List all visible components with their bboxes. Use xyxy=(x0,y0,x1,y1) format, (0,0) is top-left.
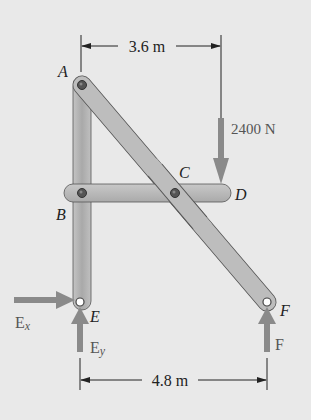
point-label-D: D xyxy=(234,186,247,203)
point-label-B: B xyxy=(56,206,66,223)
load-arrow-2400N xyxy=(213,118,229,184)
point-label-A: A xyxy=(57,63,68,80)
reaction-label-F: F xyxy=(275,336,284,353)
reaction-arrow-Ex xyxy=(14,291,75,309)
reaction-arrow-Ey xyxy=(71,307,89,352)
load-label-2400N: 2400 N xyxy=(231,121,276,137)
reaction-arrow-F xyxy=(258,307,276,352)
point-label-F: F xyxy=(279,302,290,319)
point-label-E: E xyxy=(89,308,100,325)
frame-diagram: 3.6 m 2400 N xyxy=(0,0,311,420)
pin-B xyxy=(78,189,87,198)
reaction-label-Ey: Ey xyxy=(90,339,106,358)
dimension-bottom: 4.8 m xyxy=(80,358,267,390)
pin-C xyxy=(171,189,180,198)
member-BD xyxy=(64,184,231,202)
pin-E xyxy=(76,298,84,306)
pin-F xyxy=(263,298,271,306)
reaction-label-Ex: Ex xyxy=(15,314,31,333)
dimension-bottom-label: 4.8 m xyxy=(152,372,189,389)
dimension-top-label: 3.6 m xyxy=(129,38,166,55)
pin-A xyxy=(78,81,87,90)
point-label-C: C xyxy=(179,164,190,181)
